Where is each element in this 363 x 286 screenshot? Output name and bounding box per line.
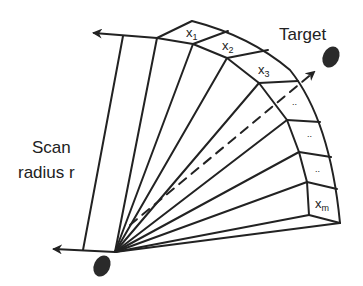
direction-to-target-dashed-arrow [130,72,314,225]
target-ellipse [319,44,343,71]
sensor-ellipse [90,253,114,280]
cell-label-xm: xm [315,196,329,213]
cell-label-x2: x2 [222,38,234,55]
sector-left-edge [83,36,123,250]
scan-sector-diagram: Target Scan radius r x1 x2 x3 .. .. .. x… [0,0,363,286]
cell-label-x3: x3 [258,62,270,79]
cell-label-ellipsis-1: .. [292,97,297,107]
cell-label-ellipsis-3: .. [315,164,320,174]
top-boundary-arrow [94,33,157,38]
target-label: Target [279,25,327,44]
cell-label-x1: x1 [186,25,198,42]
scan-label-line2: radius r [18,163,75,182]
cell-dividers [193,31,340,223]
cell-label-ellipsis-2: .. [307,129,312,139]
left-boundary-arrow [54,249,115,252]
fan-spokes [115,38,340,252]
scan-label-line1: Scan [32,138,71,157]
